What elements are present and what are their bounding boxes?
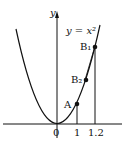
point-b1-label: B₁ bbox=[80, 42, 91, 52]
tick-1-2: 1.2 bbox=[88, 128, 104, 138]
point-b2 bbox=[84, 78, 89, 83]
point-a bbox=[75, 102, 80, 107]
point-a-label: A bbox=[64, 100, 71, 110]
tick-1: 1 bbox=[74, 128, 80, 138]
point-b1 bbox=[93, 45, 98, 50]
parabola-curve bbox=[16, 25, 100, 124]
y-axis-label: y bbox=[50, 8, 56, 18]
point-b2-label: B₂ bbox=[71, 75, 82, 85]
curve-label: y = x² bbox=[66, 26, 96, 36]
diagram-canvas bbox=[0, 0, 122, 142]
tick-0: 0 bbox=[53, 128, 59, 138]
